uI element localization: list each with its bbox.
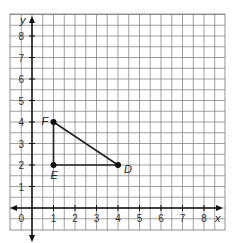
triangle-def: DEF <box>42 115 133 181</box>
y-tick-label: 3 <box>18 139 24 150</box>
x-tick-label: 1 <box>51 213 57 224</box>
y-axis-label: y <box>19 14 27 26</box>
point-label-d: D <box>124 163 132 175</box>
x-tick-label: 4 <box>115 213 121 224</box>
x-tick-label: 5 <box>137 213 143 224</box>
point-label-e: E <box>51 169 59 181</box>
origin-label: 0 <box>18 213 24 224</box>
point-d <box>115 162 121 168</box>
x-axis-left-arrow-icon <box>10 205 17 211</box>
axes: 12345678123456780xy <box>10 14 223 242</box>
y-axis-down-arrow-icon <box>29 235 35 242</box>
x-tick-label: 6 <box>158 213 164 224</box>
x-tick-label: 3 <box>94 213 100 224</box>
y-tick-label: 7 <box>18 53 24 64</box>
y-axis-arrow-icon <box>29 16 35 23</box>
y-tick-label: 5 <box>18 96 24 107</box>
y-tick-label: 4 <box>18 117 24 128</box>
x-axis-label: x <box>214 212 221 224</box>
coordinate-grid: 12345678123456780xyDEF <box>0 0 237 243</box>
point-label-f: F <box>42 115 50 127</box>
y-tick-label: 8 <box>18 31 24 42</box>
y-tick-label: 2 <box>18 160 24 171</box>
point-e <box>51 162 57 168</box>
x-axis-arrow-icon <box>216 205 223 211</box>
x-tick-label: 2 <box>72 213 78 224</box>
y-tick-label: 1 <box>18 182 24 193</box>
y-tick-label: 6 <box>18 74 24 85</box>
x-tick-label: 8 <box>201 213 207 224</box>
x-tick-label: 7 <box>180 213 186 224</box>
point-f <box>51 119 57 125</box>
